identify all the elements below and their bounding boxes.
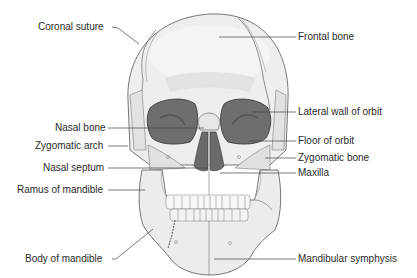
upper-teeth xyxy=(166,195,250,209)
nasal-bone-shape xyxy=(198,113,220,130)
label-nasal-bone: Nasal bone xyxy=(55,122,106,134)
label-body-of-mandible: Body of mandible xyxy=(25,253,102,265)
label-nasal-septum: Nasal septum xyxy=(43,162,104,174)
label-maxilla: Maxilla xyxy=(298,167,329,179)
label-mandibular-symphysis: Mandibular symphysis xyxy=(298,253,397,265)
skull-diagram: Coronal suture Nasal bone Zygomatic arch… xyxy=(0,0,417,278)
label-ramus-of-mandible: Ramus of mandible xyxy=(17,184,103,196)
lower-teeth xyxy=(170,209,248,221)
orbit-right xyxy=(221,99,271,144)
label-frontal-bone: Frontal bone xyxy=(298,31,354,43)
label-zygomatic-bone: Zygomatic bone xyxy=(298,152,369,164)
label-floor-of-orbit: Floor of orbit xyxy=(298,135,354,147)
label-coronal-suture: Coronal suture xyxy=(38,21,104,33)
label-zygomatic-arch: Zygomatic arch xyxy=(35,140,103,152)
skull-illustration xyxy=(0,0,417,278)
label-lateral-wall-of-orbit: Lateral wall of orbit xyxy=(298,106,382,118)
orbit-left xyxy=(147,99,198,144)
